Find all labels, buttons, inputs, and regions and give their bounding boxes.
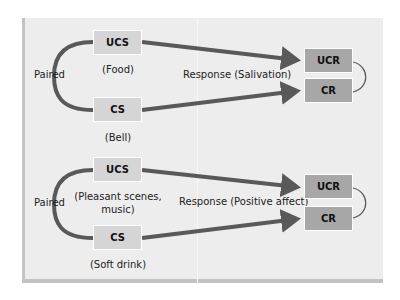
ucs-to-ucr-arrow-2 <box>142 170 297 187</box>
cs-caption-2: (Soft drink) <box>90 259 146 270</box>
cs-to-cr-arrow-2 <box>142 219 297 238</box>
ucr-box-2: UCR <box>304 174 353 199</box>
ucs-box-2: UCS <box>93 157 142 182</box>
paired-label-2: Paired <box>34 197 65 208</box>
response-label-2: Response (Positive affect) <box>179 196 308 207</box>
cs-to-cr-arrow-1 <box>142 91 297 110</box>
connector-layer <box>0 0 400 300</box>
response-label-1: Response (Salivation) <box>183 69 291 80</box>
response-link-arc-2 <box>353 188 366 218</box>
cs-box-1: CS <box>93 97 142 122</box>
cs-box-2: CS <box>93 225 142 250</box>
ucs-caption-2-line2: music) <box>101 204 134 215</box>
ucs-caption-1: (Food) <box>102 64 134 75</box>
paired-label-1: Paired <box>34 69 65 80</box>
ucs-caption-2-line1: (Pleasant scenes, <box>74 191 162 202</box>
ucs-box-1: UCS <box>93 30 142 55</box>
response-link-arc-1 <box>353 62 366 92</box>
cs-caption-1: (Bell) <box>105 132 131 143</box>
ucs-to-ucr-arrow-1 <box>142 42 297 60</box>
ucr-box-1: UCR <box>304 48 353 73</box>
cr-box-2: CR <box>304 206 353 231</box>
cr-box-1: CR <box>304 78 353 103</box>
